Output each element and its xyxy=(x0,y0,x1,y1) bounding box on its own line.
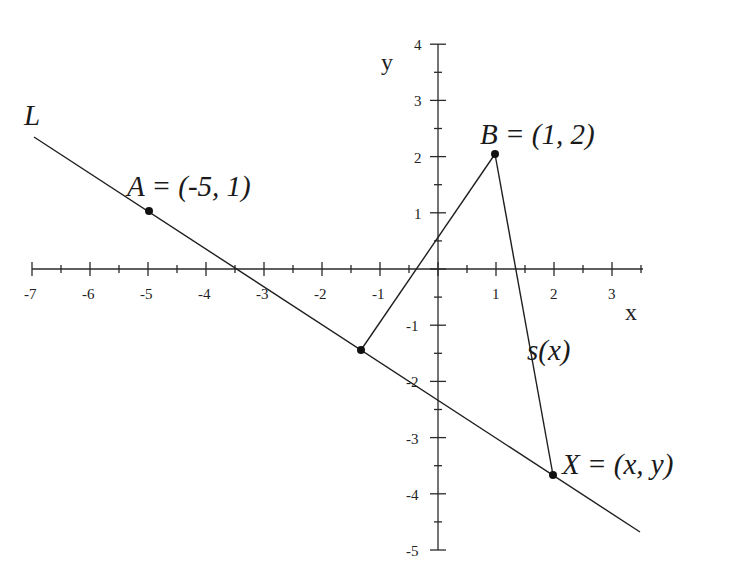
y-tick-label: 1 xyxy=(414,206,422,222)
tick-labels: -7-6-5-4-3-2-11234321-1-2-3-4-5 xyxy=(24,37,616,559)
line-L-label: L xyxy=(23,99,40,131)
x-tick-label: 1 xyxy=(492,286,500,302)
segment-B-X xyxy=(495,154,553,475)
diagram-canvas: -7-6-5-4-3-2-11234321-1-2-3-4-5 y x L s(… xyxy=(0,0,732,585)
x-tick-label: -5 xyxy=(140,286,153,302)
y-tick-label: 4 xyxy=(414,37,422,53)
point-A xyxy=(145,207,153,215)
x-tick-label: -6 xyxy=(82,286,95,302)
point-B-label: B = (1, 2) xyxy=(480,118,595,151)
x-axis-label: x xyxy=(625,299,637,325)
x-tick-label: -2 xyxy=(314,286,327,302)
point-P xyxy=(357,346,365,354)
s-x-label: s(x) xyxy=(527,334,570,367)
y-tick-label: -1 xyxy=(406,318,419,334)
x-tick-label: 3 xyxy=(608,286,616,302)
point-A-label: A = (-5, 1) xyxy=(125,170,251,203)
y-tick-label: 2 xyxy=(414,150,422,166)
segment-P-B xyxy=(361,154,495,350)
y-tick-label: -4 xyxy=(406,487,419,503)
y-axis-label: y xyxy=(381,49,393,75)
y-tick-label: -5 xyxy=(406,543,419,559)
x-tick-label: -4 xyxy=(198,286,211,302)
x-tick-label: -1 xyxy=(372,286,385,302)
y-tick-label: -2 xyxy=(406,374,419,390)
x-tick-label: -7 xyxy=(24,286,37,302)
y-tick-label: -3 xyxy=(406,431,419,447)
x-tick-label: 2 xyxy=(550,286,558,302)
point-X-label: X = (x, y) xyxy=(561,448,673,481)
point-X xyxy=(549,471,557,479)
y-tick-label: 3 xyxy=(414,93,422,109)
point-B xyxy=(491,150,499,158)
